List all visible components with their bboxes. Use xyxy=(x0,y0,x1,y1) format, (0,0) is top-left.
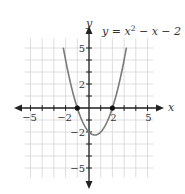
y-tick-label: 5 xyxy=(79,43,85,54)
equation-suffix: − x − 2 xyxy=(135,25,181,38)
intercept-point xyxy=(75,105,80,110)
x-axis-left-arrow-icon xyxy=(14,105,22,112)
parabola-graph: −5−22552−2−5 x y y = x2 − x − 2 xyxy=(0,0,185,194)
parabola-curve xyxy=(63,48,126,135)
y-tick-label: 2 xyxy=(79,79,85,90)
y-tick-label: −5 xyxy=(70,163,85,174)
x-tick-label: −2 xyxy=(57,112,72,123)
y-axis-down-arrow-icon xyxy=(86,181,93,189)
y-axis-label: y xyxy=(85,17,93,30)
x-axis-label: x xyxy=(168,101,175,114)
x-tick-label: −5 xyxy=(22,112,37,123)
y-tick-label: −2 xyxy=(70,127,85,138)
x-axis-right-arrow-icon xyxy=(156,105,164,112)
equation-prefix: y = x xyxy=(101,25,131,38)
x-tick-label: 5 xyxy=(145,112,151,123)
equation-label: y = x2 − x − 2 xyxy=(101,24,181,38)
x-tick-label: 2 xyxy=(110,112,116,123)
axes xyxy=(14,26,164,189)
intercept-point xyxy=(110,105,115,110)
